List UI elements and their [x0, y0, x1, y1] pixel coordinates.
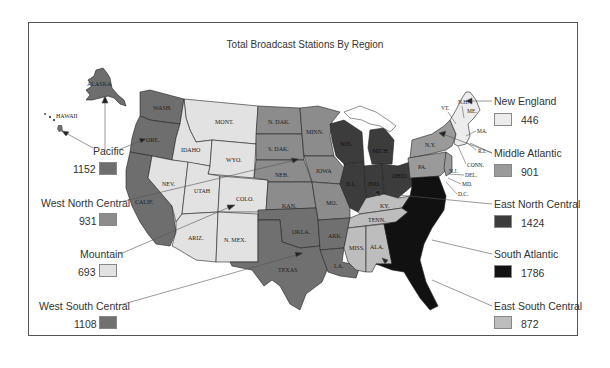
hawaii-island	[53, 119, 55, 121]
label-ind: IND.	[368, 181, 381, 187]
label-okla: OKLA.	[292, 229, 311, 235]
legend-ne-name: New England	[494, 95, 556, 107]
us-map: ALASKA HAWAII WASH. ORE. CALIF. MONT. ID…	[0, 0, 610, 368]
label-ndak: N. DAK.	[268, 119, 290, 125]
label-ark: ARK.	[328, 233, 343, 239]
legend-ma-name: Middle Atlantic	[494, 147, 562, 159]
label-ohio: OHIO	[392, 173, 408, 179]
label-me: ME.	[467, 108, 477, 114]
label-ky: KY.	[380, 203, 390, 209]
label-wyo: WYO.	[226, 157, 242, 163]
legend-sa-value: 1786	[521, 267, 544, 279]
label-nev: NEV.	[162, 181, 176, 187]
label-mo: MO.	[326, 200, 338, 206]
legend-mountain-name: Mountain	[80, 248, 123, 260]
label-sdak: S. DAK.	[268, 146, 289, 152]
label-minn: MINN.	[306, 129, 324, 135]
label-tenn: TENN.	[368, 217, 386, 223]
label-neb: NEB.	[275, 172, 289, 178]
state-mich	[368, 128, 394, 164]
label-conn: CONN.	[467, 162, 485, 168]
label-kan: KAN.	[282, 203, 297, 209]
legend-enc-name: East North Central	[494, 198, 580, 210]
legend-wsc-value: 1108	[74, 318, 97, 330]
legend-ma-swatch	[494, 164, 512, 177]
label-ore: ORE.	[146, 137, 160, 143]
legend-ne-value: 446	[521, 114, 539, 126]
label-ala: ALA.	[370, 244, 384, 250]
legend-sa-swatch	[494, 265, 512, 278]
label-pa: PA.	[418, 164, 427, 170]
label-nj: N.J.	[449, 168, 458, 174]
label-calif: CALIF.	[135, 199, 154, 205]
label-nmex: N. MEX.	[224, 237, 247, 243]
legend-ma-value: 901	[521, 166, 539, 178]
label-la: LA.	[334, 263, 344, 269]
legend-wnc-name: West North Central	[41, 197, 130, 209]
legend-wsc-swatch	[99, 316, 117, 329]
label-colo: COLO.	[236, 196, 254, 202]
state-ny	[410, 120, 456, 158]
label-miss: MISS.	[349, 245, 365, 251]
label-texas: TEXAS	[278, 267, 297, 273]
label-ma: MA.	[477, 128, 488, 134]
legend-mountain-swatch	[99, 264, 117, 277]
label-dc: D.C.	[458, 191, 469, 197]
label-del: DEL.	[465, 172, 478, 178]
label-alaska: ALASKA	[87, 81, 112, 87]
label-ny: N.Y.	[425, 142, 436, 148]
legend-esc-swatch	[494, 316, 512, 329]
label-iowa: IOWA	[316, 168, 332, 174]
state-colo	[218, 176, 268, 212]
label-ill: ILL.	[346, 181, 357, 187]
label-vt: VT.	[441, 105, 450, 111]
legend-sa-name: South Atlantic	[494, 248, 558, 260]
label-wis: WIS.	[340, 141, 353, 147]
legend-pacific-name: Pacific	[93, 145, 124, 157]
legend-mountain-value: 693	[78, 266, 96, 278]
label-hawaii: HAWAII	[56, 113, 78, 119]
label-utah: UTAH	[194, 188, 211, 194]
label-mich: MICH.	[372, 148, 390, 154]
legend-enc-swatch	[494, 215, 512, 228]
legend-wnc-swatch	[99, 213, 117, 226]
legend-esc-name: East South Central	[494, 300, 582, 312]
hawaii-island	[49, 116, 51, 118]
label-mont: MONT.	[215, 119, 234, 125]
label-idaho: IDAHO	[181, 147, 201, 153]
legend-wsc-name: West South Central	[39, 300, 130, 312]
state-ohio	[382, 162, 412, 198]
label-md: MD.	[462, 181, 473, 187]
hawaii-island	[44, 113, 46, 115]
legend-pacific-swatch	[99, 162, 117, 175]
legend-esc-value: 872	[521, 318, 539, 330]
legend-pacific-value: 1152	[73, 163, 96, 175]
legend-wnc-value: 931	[79, 215, 97, 227]
legend-enc-value: 1424	[521, 217, 544, 229]
legend-ne-swatch	[494, 113, 512, 126]
label-ariz: ARIZ.	[188, 235, 204, 241]
label-wash: WASH.	[153, 105, 172, 111]
